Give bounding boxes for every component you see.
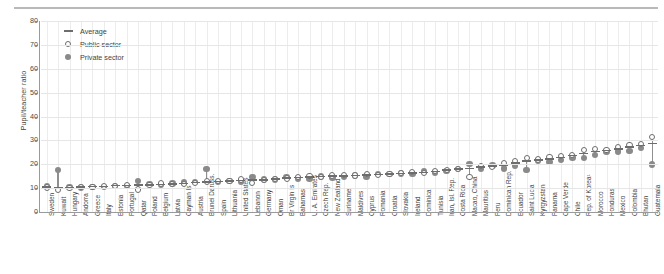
x-tick-label: Oman — [278, 199, 284, 216]
y-tick-mark — [35, 212, 38, 213]
y-tick-mark — [35, 45, 38, 46]
data-point-average — [431, 171, 440, 173]
data-point-average — [408, 172, 417, 174]
data-point-average — [522, 160, 531, 162]
data-point-average — [476, 166, 485, 168]
gridline — [41, 164, 658, 165]
data-point-average — [191, 182, 200, 184]
x-tick-label: Poland — [152, 196, 158, 216]
data-point-average — [156, 184, 165, 186]
data-point-average — [488, 165, 497, 167]
data-point-average — [534, 159, 543, 161]
gridline — [41, 45, 658, 46]
data-point-average — [648, 143, 657, 145]
gridline — [41, 21, 658, 22]
data-point-average — [271, 178, 280, 180]
x-tick-label: Latvia — [175, 199, 181, 216]
legend-item: Private sector — [63, 51, 124, 63]
data-point-public — [249, 180, 255, 186]
x-tick-label: Italy — [106, 204, 112, 216]
data-point-average — [636, 145, 645, 147]
x-tick-label: Dominican Rep. — [506, 171, 512, 216]
data-point-average — [625, 146, 634, 148]
y-tick-mark — [35, 117, 38, 118]
y-tick-mark — [35, 93, 38, 94]
x-tick-label: New Zealand — [335, 178, 341, 216]
y-axis-ticks: 01020304050607080 — [0, 0, 38, 274]
data-point-average — [454, 168, 463, 170]
data-point-average — [134, 184, 143, 186]
data-point-average — [556, 157, 565, 159]
data-point-average — [614, 148, 623, 150]
data-point-average — [339, 175, 348, 177]
data-point-average — [442, 169, 451, 171]
gridline — [41, 93, 658, 94]
x-tick-label: United States — [243, 178, 249, 216]
gridline — [41, 69, 658, 70]
y-tick-mark — [35, 140, 38, 141]
data-point-private — [55, 167, 61, 173]
y-tick-mark — [35, 21, 38, 22]
data-point-average — [122, 185, 131, 187]
data-point-average — [465, 168, 474, 170]
y-tick-mark — [35, 164, 38, 165]
y-tick-mark — [35, 188, 38, 189]
gridline — [41, 140, 658, 141]
gridline — [41, 188, 658, 189]
data-point-average — [602, 150, 611, 152]
legend-label: Private sector — [80, 53, 124, 62]
x-tick-label: Peru — [495, 203, 501, 217]
filled-circle-icon — [63, 54, 76, 60]
data-point-average — [374, 174, 383, 176]
data-point-average — [568, 155, 577, 157]
x-tick-label: Ireland — [415, 196, 421, 216]
data-point-average — [294, 177, 303, 179]
data-point-private — [135, 178, 141, 184]
data-point-public — [649, 134, 655, 140]
gridline — [41, 117, 658, 118]
data-point-average — [545, 158, 554, 160]
data-point-average — [168, 183, 177, 185]
data-point-private — [203, 166, 209, 172]
data-point-average — [385, 173, 394, 175]
data-point-average — [225, 180, 234, 182]
x-tick-label: Chile — [575, 201, 581, 216]
legend-label: Average — [80, 27, 107, 36]
data-point-average — [282, 177, 291, 179]
data-point-private — [523, 167, 529, 173]
data-point-average — [111, 185, 120, 187]
x-axis-spine — [39, 212, 658, 213]
data-point-private — [581, 155, 587, 161]
header-rule — [14, 7, 658, 9]
line-marker-icon — [63, 30, 76, 32]
data-point-average — [259, 179, 268, 181]
chart-figure: Pupil/teacher ratio 01020304050607080 Sw… — [0, 0, 664, 274]
y-tick-mark — [35, 69, 38, 70]
data-point-average — [419, 172, 428, 174]
data-point-average — [145, 184, 154, 186]
y-axis-spine — [39, 21, 40, 212]
x-tick-label: Rep. of Korea¹ — [586, 174, 592, 216]
x-tick-label: U. A. Emirates — [312, 175, 318, 216]
data-point-average — [328, 175, 337, 177]
x-tick-label: Spain — [221, 200, 227, 216]
data-point-average — [351, 175, 360, 177]
x-tick-label: Austria — [198, 196, 204, 216]
data-point-average — [579, 153, 588, 155]
data-point-private — [626, 148, 632, 154]
legend-item: Average — [63, 25, 124, 37]
data-point-average — [99, 186, 108, 188]
data-point-average — [362, 174, 371, 176]
x-tick-label: Qatar — [141, 200, 147, 216]
x-tick-label: Iran, Isl. Rep. — [449, 178, 455, 216]
data-point-average — [396, 173, 405, 175]
data-point-average — [591, 151, 600, 153]
data-point-private — [592, 152, 598, 158]
x-tick-label: Kuwait — [61, 197, 67, 216]
x-tick-label: Brunei Daruss. — [209, 174, 215, 216]
x-tick-label: Macao, China — [472, 177, 478, 216]
